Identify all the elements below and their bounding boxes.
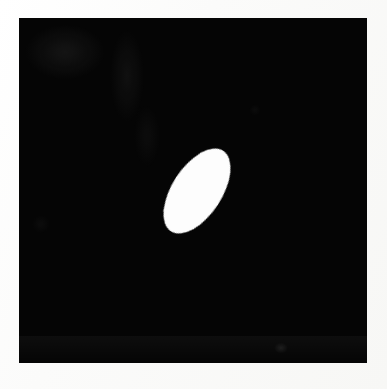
image-canvas: Binary mask image with single bright ell… (0, 0, 387, 389)
emulsion-noise (19, 18, 367, 363)
lower-light-band (19, 336, 367, 363)
dark-field-plate (19, 18, 367, 363)
